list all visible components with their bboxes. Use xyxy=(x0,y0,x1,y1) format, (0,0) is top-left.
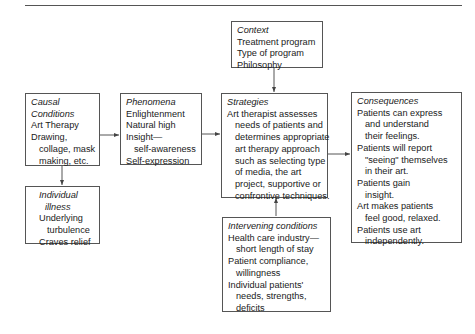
consequences-box: Consequences Patients can express and un… xyxy=(351,92,462,243)
strategies-line: determines appropriate xyxy=(227,132,323,144)
individual-line: Craves relief xyxy=(31,237,95,249)
phenomena-box: Phenomena Enlightenment Natural high Ins… xyxy=(120,93,202,165)
phenomena-line: Natural high xyxy=(126,120,197,132)
consequences-title: Consequences xyxy=(357,96,457,108)
consequences-line: Patients will report xyxy=(357,143,457,155)
individual-line: turbulence xyxy=(31,225,95,237)
consequences-line: independently. xyxy=(357,236,457,248)
strategies-title: Strategies xyxy=(227,97,323,109)
consequences-line: Art makes patients xyxy=(357,201,457,213)
consequences-line: Patients use art xyxy=(357,225,457,237)
phenomena-line: Insight— xyxy=(126,132,197,144)
consequences-line: their feelings. xyxy=(357,131,457,143)
consequences-line: insight. xyxy=(357,190,457,202)
causal-line: making, etc. xyxy=(31,156,95,168)
individual-line: Underlying xyxy=(31,213,95,225)
context-box: Context Treatment program Type of progra… xyxy=(231,21,323,68)
causal-title: Conditions xyxy=(31,109,95,121)
intervening-line: willingness xyxy=(228,268,326,280)
intervening-line: Health care industry— xyxy=(228,233,326,245)
phenomena-title: Phenomena xyxy=(126,97,197,109)
phenomena-line: self-awareness xyxy=(126,144,197,156)
causal-line: collage, mask xyxy=(31,144,95,156)
context-line: Philosophy xyxy=(237,60,318,72)
intervening-line: Individual patients' xyxy=(228,280,326,292)
intervening-title: Intervening conditions xyxy=(228,221,326,233)
causal-title: Causal xyxy=(31,97,95,109)
consequences-line: feel good, relaxed. xyxy=(357,213,457,225)
individual-title: illness xyxy=(31,202,95,214)
phenomena-line: Self-expression xyxy=(126,156,197,168)
strategies-box: Strategies Art therapist assesses needs … xyxy=(221,93,328,198)
strategies-line: confrontive techniques. xyxy=(227,191,323,203)
causal-line: Drawing, xyxy=(31,132,95,144)
causal-conditions-box: Causal Conditions Art Therapy Drawing, c… xyxy=(25,93,100,166)
phenomena-line: Enlightenment xyxy=(126,109,197,121)
strategies-line: such as selecting type xyxy=(227,156,323,168)
strategies-line: art therapy approach xyxy=(227,144,323,156)
consequences-line: in their art. xyxy=(357,166,457,178)
intervening-line: Patient compliance, xyxy=(228,256,326,268)
consequences-line: and understand xyxy=(357,119,457,131)
context-title: Context xyxy=(237,25,318,37)
consequences-line: "seeing" themselves xyxy=(357,155,457,167)
intervening-line: short length of stay xyxy=(228,244,326,256)
context-line: Type of program xyxy=(237,48,318,60)
individual-illness-box: Individual illness Underlying turbulence… xyxy=(25,186,100,244)
causal-line: Art Therapy xyxy=(31,120,95,132)
individual-title: Individual xyxy=(31,190,95,202)
intervening-line: deficits xyxy=(228,303,326,315)
strategies-line: of media, the art xyxy=(227,167,323,179)
consequences-line: Patients can express xyxy=(357,108,457,120)
strategies-line: Art therapist assesses xyxy=(227,109,323,121)
context-line: Treatment program xyxy=(237,37,318,49)
consequences-line: Patients gain xyxy=(357,178,457,190)
strategies-line: needs of patients and xyxy=(227,120,323,132)
intervening-conditions-box: Intervening conditions Health care indus… xyxy=(222,217,331,312)
intervening-line: needs, strengths, xyxy=(228,291,326,303)
strategies-line: project, supportive or xyxy=(227,179,323,191)
